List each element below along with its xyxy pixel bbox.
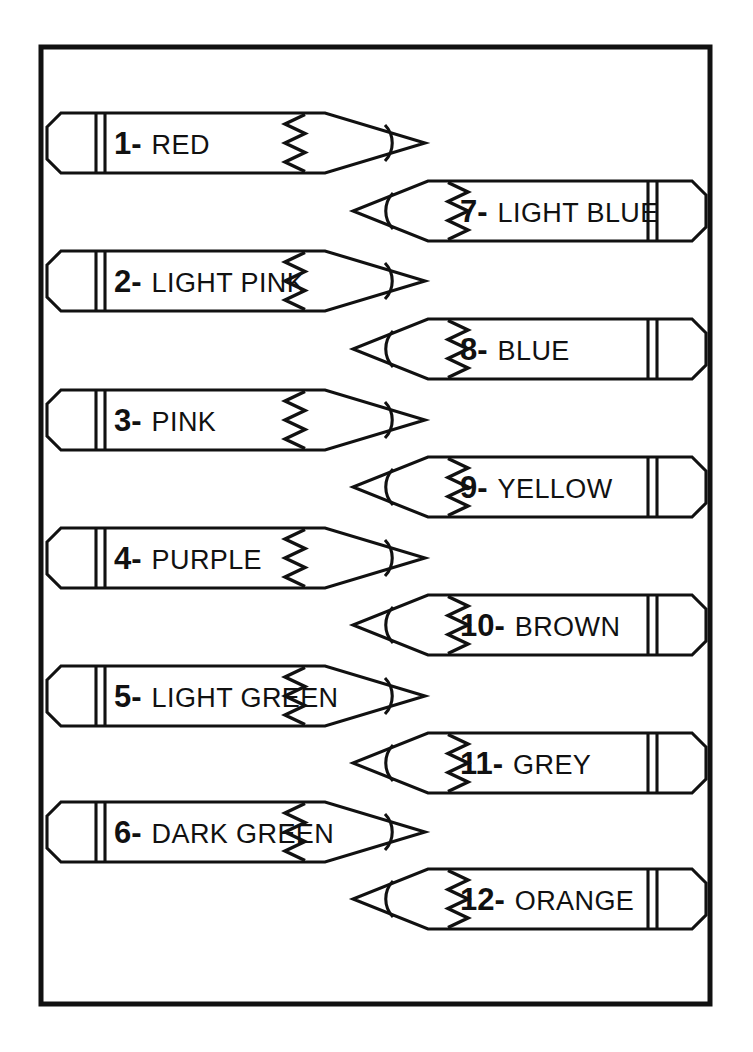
pencil-number-7: 7 bbox=[460, 194, 477, 229]
worksheet-page: 1-RED2-LIGHT PINK3-PINK4-PURPLE5-LIGHT G… bbox=[0, 0, 753, 1052]
pencil-color-label-11: GREY bbox=[513, 750, 591, 780]
pencil-10[interactable]: 10-BROWN bbox=[353, 595, 706, 655]
pencil-separator-dash: - bbox=[131, 541, 141, 576]
pencil-number-2: 2 bbox=[114, 264, 131, 299]
pencil-separator-dash: - bbox=[494, 608, 504, 643]
pencil-text-8: 8-BLUE bbox=[460, 332, 570, 367]
pencil-number-3: 3 bbox=[114, 403, 131, 438]
pencil-number-9: 9 bbox=[460, 470, 477, 505]
pencil-color-label-7: LIGHT BLUE bbox=[498, 198, 659, 228]
pencil-color-label-12: ORANGE bbox=[515, 886, 634, 916]
pencil-2[interactable]: 2-LIGHT PINK bbox=[47, 251, 425, 311]
pencil-color-label-8: BLUE bbox=[498, 336, 570, 366]
pencil-number-5: 5 bbox=[114, 679, 131, 714]
pencil-separator-dash: - bbox=[131, 264, 141, 299]
pencil-color-label-4: PURPLE bbox=[152, 545, 262, 575]
pencil-5[interactable]: 5-LIGHT GREEN bbox=[47, 666, 425, 726]
pencil-color-label-10: BROWN bbox=[515, 612, 621, 642]
pencil-number-12: 12 bbox=[460, 882, 494, 917]
pencil-color-label-6: DARK GREEN bbox=[152, 819, 335, 849]
pencil-separator-dash: - bbox=[131, 679, 141, 714]
pencil-12[interactable]: 12-ORANGE bbox=[353, 869, 706, 929]
pencil-color-label-2: LIGHT PINK bbox=[152, 268, 306, 298]
pencil-color-label-5: LIGHT GREEN bbox=[152, 683, 339, 713]
pencil-text-3: 3-PINK bbox=[114, 403, 216, 438]
pencil-separator-dash: - bbox=[477, 194, 487, 229]
pencil-1[interactable]: 1-RED bbox=[47, 113, 425, 173]
pencil-number-10: 10 bbox=[460, 608, 494, 643]
pencil-9[interactable]: 9-YELLOW bbox=[353, 457, 706, 517]
pencil-separator-dash: - bbox=[131, 403, 141, 438]
pencil-color-label-1: RED bbox=[152, 130, 210, 160]
pencil-separator-dash: - bbox=[477, 332, 487, 367]
pencil-group-layer: 1-RED2-LIGHT PINK3-PINK4-PURPLE5-LIGHT G… bbox=[47, 113, 706, 929]
pencil-number-4: 4 bbox=[114, 541, 132, 576]
pencil-text-10: 10-BROWN bbox=[460, 608, 620, 643]
pencil-separator-dash: - bbox=[131, 126, 141, 161]
pencil-color-label-9: YELLOW bbox=[498, 474, 613, 504]
pencil-text-11: 11-GREY bbox=[460, 746, 591, 781]
pencil-number-8: 8 bbox=[460, 332, 477, 367]
pencil-separator-dash: - bbox=[131, 815, 141, 850]
pencil-3[interactable]: 3-PINK bbox=[47, 390, 425, 450]
pencil-text-1: 1-RED bbox=[114, 126, 210, 161]
pencil-separator-dash: - bbox=[477, 470, 487, 505]
worksheet-canvas: 1-RED2-LIGHT PINK3-PINK4-PURPLE5-LIGHT G… bbox=[0, 0, 753, 1052]
pencil-text-12: 12-ORANGE bbox=[460, 882, 634, 917]
pencil-text-4: 4-PURPLE bbox=[114, 541, 262, 576]
pencil-separator-dash: - bbox=[493, 746, 503, 781]
pencil-separator-dash: - bbox=[494, 882, 504, 917]
pencil-4[interactable]: 4-PURPLE bbox=[47, 528, 425, 588]
pencil-number-6: 6 bbox=[114, 815, 131, 850]
pencil-text-9: 9-YELLOW bbox=[460, 470, 613, 505]
pencil-number-11: 11 bbox=[460, 746, 493, 781]
pencil-6[interactable]: 6-DARK GREEN bbox=[47, 802, 425, 862]
pencil-color-label-3: PINK bbox=[152, 407, 217, 437]
pencil-7[interactable]: 7-LIGHT BLUE bbox=[353, 181, 706, 241]
pencil-11[interactable]: 11-GREY bbox=[353, 733, 706, 793]
pencil-number-1: 1 bbox=[114, 126, 131, 161]
pencil-8[interactable]: 8-BLUE bbox=[353, 319, 706, 379]
